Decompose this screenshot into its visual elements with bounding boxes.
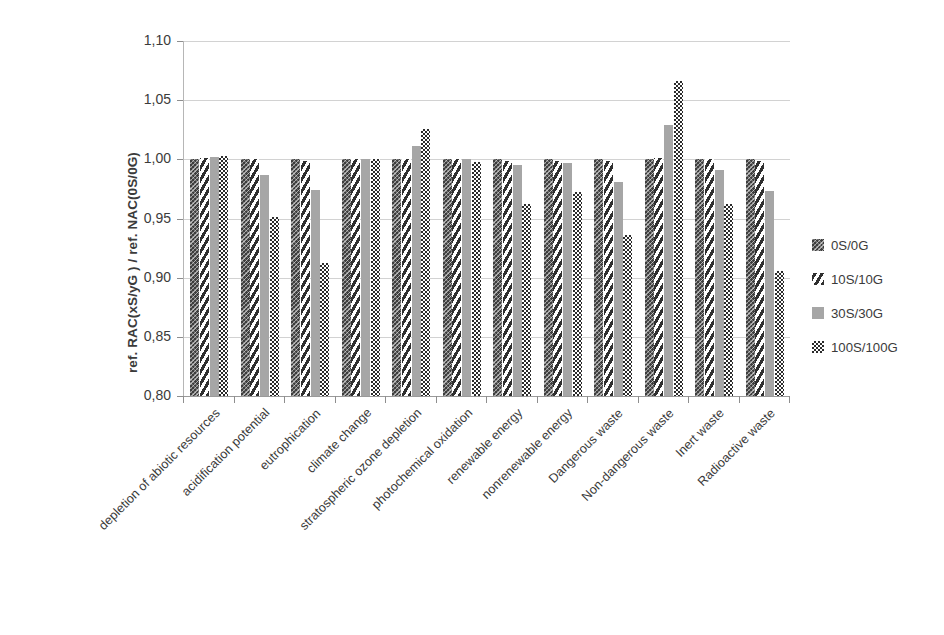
bar-group [594,41,632,396]
x-tick-label: acidification potential [179,406,272,499]
bar-group [241,41,279,396]
y-tick-mark [177,100,183,101]
legend-swatch-icon [812,273,824,285]
bar [623,235,632,396]
x-tick-mark [688,396,689,403]
bar [421,129,430,396]
y-tick-mark [177,41,183,42]
bar [513,165,522,396]
y-tick-mark [177,219,183,220]
bar [695,159,704,396]
x-tick-mark [537,396,538,403]
bar [674,81,683,396]
legend-label: 10S/10G [831,272,883,287]
x-tick-mark [335,396,336,403]
bar [392,159,401,396]
bar [351,159,360,396]
legend-item: 0S/0G [812,228,940,262]
bar [311,190,320,396]
x-tick-label: Non-dangerous waste [579,406,677,504]
legend-label: 30S/30G [831,306,883,321]
bar [715,170,724,396]
bar-group [746,41,784,396]
x-tick-mark [789,396,790,403]
x-tick-mark [183,396,184,403]
bar [210,157,219,396]
y-tick-label: 0,80 [111,387,171,403]
bar-group [544,41,582,396]
bar-group [291,41,329,396]
y-tick-label: 0,90 [111,269,171,285]
x-tick-mark [486,396,487,403]
x-tick-mark [385,396,386,403]
bar-group [392,41,430,396]
bar [452,159,461,396]
bar [371,159,380,396]
bar [664,125,673,396]
bar [200,158,209,396]
y-tick-label: 1,00 [111,150,171,166]
bar [190,159,199,396]
bar [594,159,603,396]
bar [462,159,471,396]
bar [544,159,553,396]
bar-group [190,41,228,396]
bar-group [443,41,481,396]
y-tick-mark [177,278,183,279]
bar-group [695,41,733,396]
bar [250,159,259,396]
bar [755,161,764,396]
bar [522,204,531,396]
y-tick-mark [177,159,183,160]
legend-label: 100S/100G [831,340,898,355]
legend-swatch-icon [812,307,824,319]
y-tick-label: 1,05 [111,91,171,107]
x-tick-label: Inert waste [673,406,727,460]
bar [472,162,481,396]
legend-swatch-icon [812,341,824,353]
x-tick-mark [638,396,639,403]
y-tick-mark [177,337,183,338]
bar [573,192,582,396]
bar [765,191,774,396]
legend: 0S/0G10S/10G30S/30G100S/100G [812,228,940,364]
bar [775,271,784,396]
x-tick-mark [234,396,235,403]
bar [705,159,714,396]
bar [645,159,654,396]
bar [320,263,329,396]
legend-item: 100S/100G [812,330,940,364]
bar [412,146,421,396]
bar [493,159,502,396]
legend-item: 30S/30G [812,296,940,330]
bar [301,161,310,396]
legend-label: 0S/0G [831,238,868,253]
bar [361,159,370,396]
bar [604,161,613,396]
bar [270,217,279,396]
bar [563,163,572,396]
plot-area [183,41,790,397]
gridline [184,396,790,397]
legend-swatch-icon [812,239,824,251]
x-tick-label: photochemical oxidation [369,406,475,512]
bar [746,159,755,396]
x-tick-mark [587,396,588,403]
bar [503,161,512,396]
bar [614,182,623,396]
bar-chart: ref. RAC(xS/yG ) / ref. NAC(0S/0G) 1,101… [0,0,944,635]
bar-group [645,41,683,396]
legend-item: 10S/10G [812,262,940,296]
x-tick-mark [436,396,437,403]
bar-group [342,41,380,396]
bar [219,156,228,396]
x-tick-mark [284,396,285,403]
bar [260,175,269,396]
bar [654,158,663,396]
y-tick-label: 0,95 [111,210,171,226]
bar [724,204,733,396]
x-tick-label: nonrenewable energy [479,406,575,502]
bar-group [493,41,531,396]
bar [553,161,562,396]
bar [443,159,452,396]
